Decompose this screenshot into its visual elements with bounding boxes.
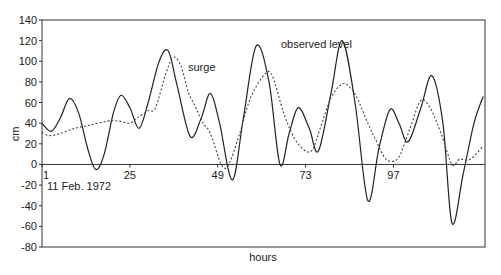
y-tick-label: 120 [19,35,37,47]
y-tick-label: 80 [25,76,37,88]
y-tick-label: 0 [31,158,37,170]
y-tick-label: 100 [19,55,37,67]
x-tick-label: 25 [124,169,136,181]
date-annotation: 11 Feb. 1972 [47,180,111,192]
surge-annotation: surge [188,61,216,73]
y-tick-label: 140 [19,14,37,26]
y-axis-title: cm [9,127,21,142]
y-tick-label: 40 [25,117,37,129]
x-axis: 125497397 [42,164,400,181]
y-tick-label: 60 [25,97,37,109]
y-axis: -80-60-40-20020406080100120140 [19,14,42,253]
x-tick-label: 49 [212,169,224,181]
y-tick-label: -80 [21,241,37,253]
y-tick-label: 20 [25,138,37,150]
y-tick-label: -40 [21,200,37,212]
x-tick-label: 97 [387,169,399,181]
y-tick-label: -20 [21,179,37,191]
surge-line [42,57,483,168]
observed-level-annotation: observed level [281,38,352,50]
x-tick-label: 73 [299,169,311,181]
observed-level-line [42,41,483,225]
x-axis-title: hours [249,251,277,263]
y-tick-label: -60 [21,220,37,232]
surge-observed-chart: -80-60-40-20020406080100120140 125497397… [0,0,501,275]
